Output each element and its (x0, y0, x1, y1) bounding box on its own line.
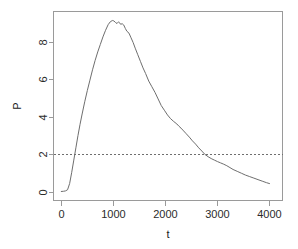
x-tick-label: 0 (58, 208, 64, 220)
y-axis-title: P (11, 102, 23, 109)
x-tick-label: 4000 (257, 208, 281, 220)
figure-background (0, 0, 298, 249)
y-tick-label: 8 (37, 39, 49, 45)
chart-figure: 02468 01000200030004000 t P (0, 0, 298, 249)
y-tick-label: 4 (37, 114, 49, 120)
plot-canvas: 02468 01000200030004000 t P (0, 0, 298, 249)
y-tick-label: 6 (37, 76, 49, 82)
y-tick-label: 0 (37, 189, 49, 195)
x-axis-title: t (166, 228, 169, 240)
x-tick-label: 3000 (205, 208, 229, 220)
y-tick-label: 2 (37, 151, 49, 157)
x-tick-label: 1000 (101, 208, 125, 220)
x-tick-label: 2000 (153, 208, 177, 220)
